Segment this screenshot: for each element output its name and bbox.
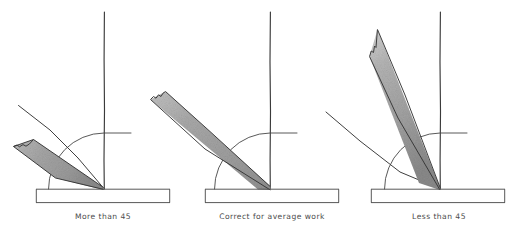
figure-canvas: More than 45 Correct for average work <box>0 0 511 229</box>
vertical-reference-line-1 <box>104 12 105 189</box>
caption-panel-2: Correct for average work <box>219 212 325 221</box>
vertical-reference-line-3 <box>440 12 441 189</box>
caption-panel-1: More than 45 <box>75 212 131 221</box>
vertical-reference-line-2 <box>270 12 271 189</box>
caption-panel-3: Less than 45 <box>412 212 466 221</box>
saw-angle-figure: More than 45 Correct for average work <box>0 0 511 229</box>
figure-background <box>0 0 511 229</box>
